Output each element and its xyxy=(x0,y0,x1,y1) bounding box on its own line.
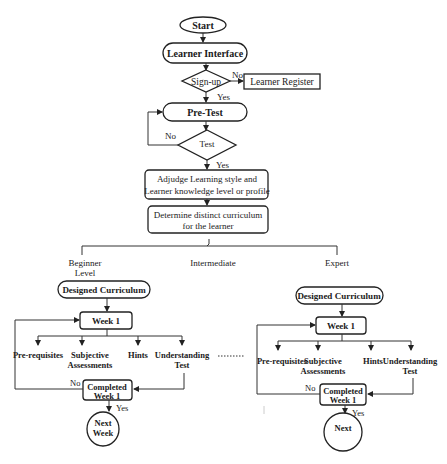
assessments-label: Assessments xyxy=(301,366,347,376)
signup-decision: Sign-up xyxy=(182,70,230,92)
test-label: Test xyxy=(200,139,215,149)
no-label: No xyxy=(70,378,80,388)
test-item-label: Test xyxy=(403,366,418,376)
expert-label: Expert xyxy=(325,258,349,268)
adjudge-node: Adjudge Learning style and Learner knowl… xyxy=(144,170,269,199)
beginner-branch: Designed Curriculum Week 1 Pre-requisite… xyxy=(13,281,245,446)
learner-interface-node: Learner Interface xyxy=(163,43,247,63)
determine-node: Determine distinct curriculum for the le… xyxy=(148,206,268,233)
start-label: Start xyxy=(192,20,214,31)
test-item-label: Test xyxy=(175,360,190,370)
learner-register-node: Learner Register xyxy=(244,74,320,89)
level-bracket xyxy=(82,246,337,255)
test-decision: Test xyxy=(178,130,236,160)
completed-label-2: Week 1 xyxy=(330,395,357,405)
hints-label: Hints xyxy=(363,356,384,366)
learner-register-label: Learner Register xyxy=(250,77,314,87)
intermediate-label: Intermediate xyxy=(190,258,235,268)
understanding-label: Understanding xyxy=(155,350,210,360)
expert-curriculum-label: Designed Curriculum xyxy=(297,291,381,301)
adjudge-label-1: Adjudge Learning style and xyxy=(157,174,258,184)
no-label: No xyxy=(305,383,315,393)
determine-label-2: for the learner xyxy=(183,221,234,231)
signup-no-label: No xyxy=(232,70,243,80)
beginner-week-label: Week 1 xyxy=(92,316,121,326)
test-no-label: No xyxy=(165,131,176,141)
expert-branch: Designed Curriculum Week 1 Pre-requisite… xyxy=(257,287,438,451)
pretest-node: Pre-Test xyxy=(163,103,247,121)
signup-label: Sign-up xyxy=(191,77,221,87)
learner-interface-label: Learner Interface xyxy=(167,48,244,59)
understanding-label: Understanding xyxy=(383,356,438,366)
prerequisites-label: Pre-requisites xyxy=(13,350,64,360)
completed-label-2: Week 1 xyxy=(94,391,121,401)
assessments-label: Assessments xyxy=(68,360,114,370)
flowchart: Start Learner Interface Sign-up No Learn… xyxy=(0,0,447,464)
signup-yes-label: Yes xyxy=(217,92,231,102)
yes-label: Yes xyxy=(116,403,128,413)
adjudge-label-2: Learner knowledge level or profile xyxy=(144,186,269,196)
next-label-1: Next xyxy=(95,418,112,428)
bracket-stem xyxy=(207,239,209,246)
prerequisites-label: Pre-requisites xyxy=(257,356,308,366)
subjective-label: Subjective xyxy=(304,356,342,366)
determine-label-1: Determine distinct curriculum xyxy=(154,210,262,220)
arrow-understanding-completed xyxy=(368,378,413,394)
expert-week-label: Week 1 xyxy=(327,321,356,331)
beginner-label-2: Level xyxy=(75,268,96,278)
hints-label: Hints xyxy=(128,350,149,360)
next-label-2: Week xyxy=(93,428,114,438)
arrow-understanding-completed xyxy=(134,373,184,389)
start-node: Start xyxy=(180,17,226,33)
pretest-label: Pre-Test xyxy=(187,107,223,118)
beginner-label-1: Beginner xyxy=(69,258,102,268)
next-label: Next xyxy=(335,423,352,433)
test-yes-label: Yes xyxy=(216,160,230,170)
subjective-label: Subjective xyxy=(71,350,109,360)
beginner-curriculum-label: Designed Curriculum xyxy=(62,285,146,295)
